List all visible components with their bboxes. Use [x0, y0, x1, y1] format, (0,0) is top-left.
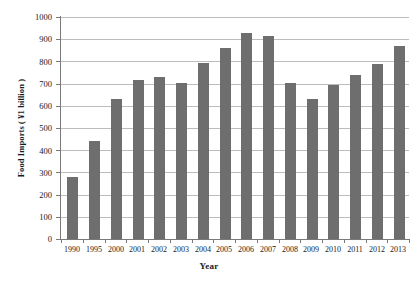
bar — [220, 48, 231, 239]
gridline-1000 — [61, 17, 409, 18]
x-tick-mark — [387, 239, 388, 243]
x-axis-title: Year — [0, 261, 418, 271]
bar — [307, 99, 318, 239]
y-tick-label: 300 — [18, 168, 52, 178]
bar-chart: Food Imports ( ¥1 billion ) 1000 900 800… — [0, 0, 418, 283]
x-tick-mark — [126, 239, 127, 243]
bar — [198, 63, 209, 239]
x-tick-mark — [322, 239, 323, 243]
x-tick-mark — [148, 239, 149, 243]
bar — [350, 75, 361, 239]
x-tick-mark — [366, 239, 367, 243]
x-tick-mark — [409, 239, 410, 243]
y-tick-label: 800 — [18, 57, 52, 67]
y-tick-label: 600 — [18, 101, 52, 111]
y-tick-label: 0 — [18, 234, 52, 244]
x-tick-label: 2013 — [383, 245, 413, 255]
x-tick-mark — [105, 239, 106, 243]
gridline-900 — [61, 39, 409, 40]
y-tick-label: 900 — [18, 34, 52, 44]
x-tick-mark — [235, 239, 236, 243]
y-tick-label: 500 — [18, 123, 52, 133]
bar — [67, 177, 78, 239]
gridline-800 — [61, 61, 409, 62]
x-tick-mark — [279, 239, 280, 243]
bar — [241, 33, 252, 239]
plot-area — [61, 17, 409, 239]
x-tick-mark — [61, 239, 62, 243]
x-tick-mark — [213, 239, 214, 243]
bar — [111, 99, 122, 239]
x-tick-mark — [170, 239, 171, 243]
y-tick-label: 700 — [18, 79, 52, 89]
bar — [133, 80, 144, 239]
bar — [394, 46, 405, 239]
bar — [176, 83, 187, 240]
bar — [372, 64, 383, 239]
bar — [263, 36, 274, 239]
x-tick-mark — [83, 239, 84, 243]
x-tick-mark — [300, 239, 301, 243]
bar — [328, 85, 339, 239]
x-tick-mark — [192, 239, 193, 243]
bar — [154, 77, 165, 239]
y-tick-label: 1000 — [18, 12, 52, 22]
y-tick-label: 400 — [18, 146, 52, 156]
bar — [285, 83, 296, 240]
y-tick-label: 100 — [18, 212, 52, 222]
x-tick-mark — [257, 239, 258, 243]
y-tick-label: 200 — [18, 190, 52, 200]
bar — [89, 141, 100, 239]
x-tick-mark — [344, 239, 345, 243]
